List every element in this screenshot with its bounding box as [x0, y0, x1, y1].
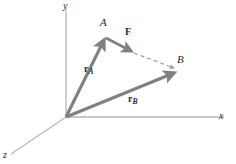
- point-b-label: B: [177, 54, 184, 65]
- x-axis-label: x: [219, 111, 223, 121]
- force-symbol: F: [125, 26, 131, 37]
- axes-group: [11, 8, 224, 154]
- y-axis-label: y: [63, 1, 67, 11]
- vector-diagram-figure: y x z A B rA rB F: [0, 0, 236, 164]
- force-vector-line: [106, 38, 131, 51]
- z-axis-label: z: [3, 150, 7, 160]
- r-a-vector-label: rA: [84, 64, 93, 75]
- line-of-action-dashed: [134, 53, 174, 68]
- r-b-vector-label: rB: [128, 94, 137, 105]
- point-a-label: A: [100, 17, 107, 28]
- force-vector-label: F: [125, 27, 131, 37]
- r-b-vector-line: [66, 73, 174, 117]
- r-a-subscript: A: [88, 67, 93, 76]
- z-axis-line: [11, 117, 66, 154]
- r-b-subscript: B: [132, 97, 137, 106]
- vectors-group: [66, 38, 174, 117]
- diagram-canvas: [0, 0, 236, 164]
